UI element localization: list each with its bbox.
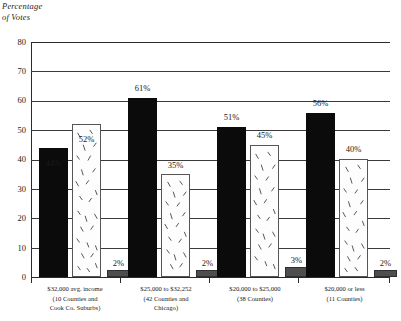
bar-chart: Percentage of Votes 80 70 60 50 40 30 20…: [0, 0, 401, 321]
x-tick-2: [209, 278, 210, 283]
y-tick-0: 0: [2, 272, 26, 282]
bar-group4-gray: [374, 270, 397, 277]
bar-group1-speckled: [72, 124, 101, 277]
bar-label-group3-speckled: 45%: [244, 130, 285, 140]
y-tick-30: 30: [2, 184, 26, 194]
y-tick-60: 60: [2, 95, 26, 105]
bar-label-group3-black: 51%: [211, 112, 252, 122]
bar-group1-gray: [107, 270, 130, 277]
bar-group3-speckled: [250, 145, 279, 277]
y-tick-70: 70: [2, 66, 26, 76]
speckle-pattern-icon: [73, 125, 100, 276]
bar-group2-speckled: [161, 174, 190, 277]
bar-group2-gray: [196, 270, 219, 277]
category-label-group4: $20,000 or less (11 Counties): [292, 284, 397, 303]
bar-group4-black: [306, 113, 335, 277]
bar-group4-speckled: [339, 159, 368, 277]
bar-label-group2-speckled: 35%: [155, 160, 196, 170]
category-label-group2-line3: Chicago): [112, 303, 220, 313]
y-tick-10: 10: [2, 243, 26, 253]
bar-label-group4-gray: 2%: [368, 258, 401, 268]
bar-label-group1-speckled: 52%: [66, 134, 107, 144]
y-axis-title-line2: of Votes: [2, 12, 42, 23]
bar-group2-black: [128, 98, 157, 277]
x-axis-line: [31, 277, 390, 278]
y-axis-title-line1: Percentage: [2, 1, 42, 12]
category-label-group4-line2: (11 Counties): [292, 294, 397, 304]
bar-label-group2-black: 61%: [122, 83, 163, 93]
y-tick-50: 50: [2, 125, 26, 135]
category-label-group4-line1: $20,000 or less: [292, 284, 397, 294]
speckle-pattern-icon: [340, 160, 367, 276]
y-tick-80: 80: [2, 37, 26, 47]
speckle-pattern-icon: [251, 146, 278, 276]
speckle-pattern-icon: [162, 175, 189, 276]
x-tick-1: [120, 278, 121, 283]
x-tick-3: [298, 278, 299, 283]
y-tick-40: 40: [2, 154, 26, 164]
gridline-70: [31, 71, 390, 72]
y-tick-20: 20: [2, 213, 26, 223]
bar-label-group1-black: 44%: [33, 158, 74, 168]
bar-group3-gray: [285, 267, 308, 277]
plot-top-border: [31, 42, 390, 43]
plot-area: 44% 52% 2% 61% 35% 2%: [31, 42, 390, 277]
y-axis-title: Percentage of Votes: [2, 1, 42, 22]
bar-group3-black: [217, 127, 246, 277]
x-tick-4: [389, 278, 390, 283]
bar-label-group4-speckled: 40%: [333, 144, 374, 154]
bar-label-group4-black: 56%: [300, 98, 341, 108]
x-tick-0: [31, 278, 32, 283]
